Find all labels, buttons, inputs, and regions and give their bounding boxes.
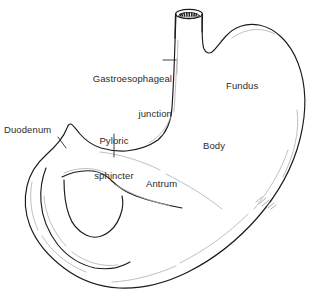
label-antrum: Antrum [146, 178, 194, 190]
label-gej-line1: Gastroesophageal [48, 73, 172, 85]
stomach-diagram-illustration [0, 0, 325, 297]
label-pyloric-line2: sphincter [76, 170, 152, 182]
esophagus-wall-left [175, 15, 176, 38]
label-body: Body [203, 140, 243, 152]
label-fundus: Fundus [226, 80, 278, 92]
stomach-anatomy-figure: Gastroesophageal junction Pyloric sphinc… [0, 0, 325, 297]
label-pyloric-sphincter: Pyloric sphincter [76, 112, 152, 204]
label-duodenum: Duodenum [4, 124, 70, 136]
label-pyloric-line1: Pyloric [76, 135, 152, 147]
